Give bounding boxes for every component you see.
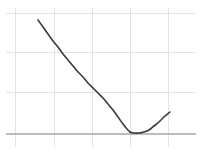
plot-figure [0,0,202,157]
plot-canvas [0,0,202,157]
